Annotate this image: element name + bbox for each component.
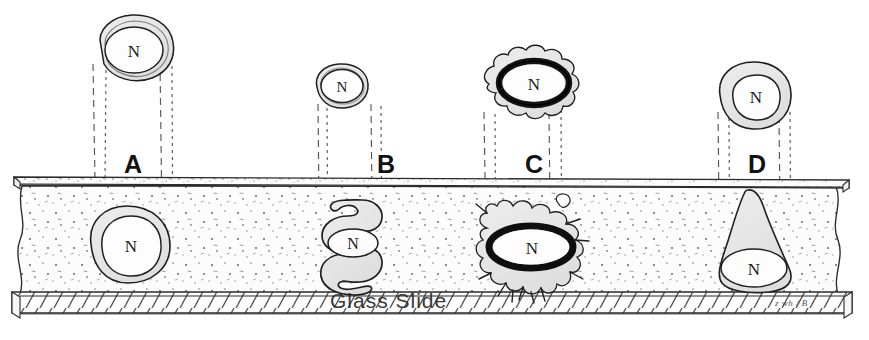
cell-c-top-view: N [485,45,579,118]
cell-label-b: B [377,152,395,177]
cell-label-c: C [525,152,543,177]
artist-signature: z wh / B [775,298,808,308]
cell-a-side-view: N [91,206,170,283]
svg-text:N: N [526,239,538,258]
glass-slide-caption: Glass Slide [330,290,447,311]
cell-b-top-nucleus: N [321,70,363,103]
svg-text:N: N [750,88,762,107]
cell-d-top-view: N [720,62,791,129]
cell-label-a: A [124,152,142,177]
cell-label-d: D [748,152,766,177]
cell-b-side-nucleus: N [328,229,378,257]
cell-a-side-nucleus: N [102,216,161,276]
cell-b-top-view: N [316,64,368,108]
svg-text:N: N [337,79,348,95]
cell-d-side-nucleus: N [721,249,787,287]
cell-a-top-nucleus: N [105,27,163,73]
diagram-canvas: N N N N [0,0,869,340]
cell-d-top-nucleus: N [733,75,780,120]
svg-text:N: N [128,42,140,61]
cell-c-side-nucleus: N [489,226,573,268]
svg-text:N: N [528,75,540,94]
svg-text:N: N [748,260,760,279]
svg-text:N: N [125,237,137,256]
cell-c-top-nucleus: N [499,61,569,105]
cell-a-top-view: N [100,15,174,81]
svg-text:N: N [347,235,359,252]
